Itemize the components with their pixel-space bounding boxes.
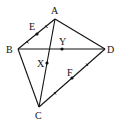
label-d: D [107,44,114,55]
edge-bc [18,49,39,107]
edges [18,19,105,107]
label-a: A [51,5,59,16]
label-x: X [37,58,45,69]
point-y [60,47,63,50]
quadrilateral-diagram: A B C D E Y X F [0,0,123,121]
label-y: Y [59,36,66,47]
tick-marks [27,26,89,95]
point-x [45,61,48,64]
label-f: F [67,67,73,78]
point-e [35,32,38,35]
label-b: B [6,44,13,55]
label-e: E [29,21,35,32]
label-c: C [35,110,42,121]
